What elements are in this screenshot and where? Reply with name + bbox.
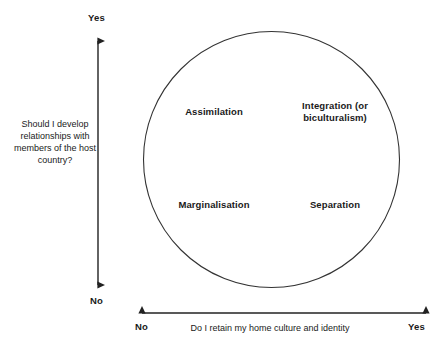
quadrant-label-separation: Separation — [296, 199, 374, 211]
y-axis-caption: Should I develop relationships with memb… — [12, 118, 98, 166]
quadrant-label-marginalisation: Marginalisation — [166, 199, 262, 211]
x-axis-right-label: Yes — [408, 321, 425, 333]
diagram-canvas: Yes No No Yes Should I develop relations… — [0, 0, 435, 350]
diagram-graphics — [0, 0, 435, 350]
x-axis-caption: Do I retain my home culture and identity — [160, 322, 380, 334]
y-axis-top-label: Yes — [88, 12, 105, 24]
x-axis-left-label: No — [135, 321, 148, 333]
quadrant-label-assimilation: Assimilation — [170, 106, 258, 118]
acculturation-circle — [144, 32, 400, 288]
quadrant-label-integration: Integration (or biculturalism) — [294, 100, 376, 124]
y-axis-bottom-label: No — [90, 295, 103, 307]
